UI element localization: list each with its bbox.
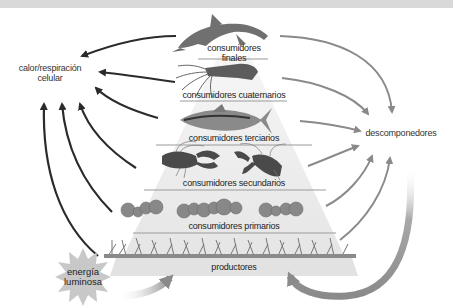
decomposers-label: descomponedores [356,128,446,138]
heat-label-line2: celular [10,73,90,83]
heat-arrow-productores [44,104,98,256]
heat-label-line1: calor/respiración [10,63,90,73]
sunlight-arrow [118,278,170,296]
level-label-finales-line1: consumidores [197,43,271,53]
light-energy-label: energía luminosa [58,267,108,287]
heat-arrow-cuaternarios [100,72,175,82]
level-label-finales-line2: finales [197,53,271,63]
decomp-arrow-secundarios [308,146,358,166]
decomp-arrow-terciarios [300,121,360,131]
algae-base [104,254,356,258]
heat-arrow-finales [82,36,176,56]
light-energy-line2: luminosa [58,277,108,287]
heat-arrow-terciarios [96,88,158,118]
level-label-primarios: consumidores primarios [164,221,304,231]
heat-label: calor/respiración celular [10,63,90,83]
level-label-terciarios: consumidores terciarios [164,133,304,143]
decomp-arrow-finales [280,36,392,112]
level-label-productores: productores [164,262,304,272]
decomp-arrow-primarios [326,156,372,206]
level-label-secundarios: consumidores secundarios [164,178,304,188]
level-label-finales: consumidores finales [197,43,271,63]
heat-arrow-secundarios [80,104,136,168]
level-label-cuaternarios: consumidores cuaternarios [164,90,304,100]
